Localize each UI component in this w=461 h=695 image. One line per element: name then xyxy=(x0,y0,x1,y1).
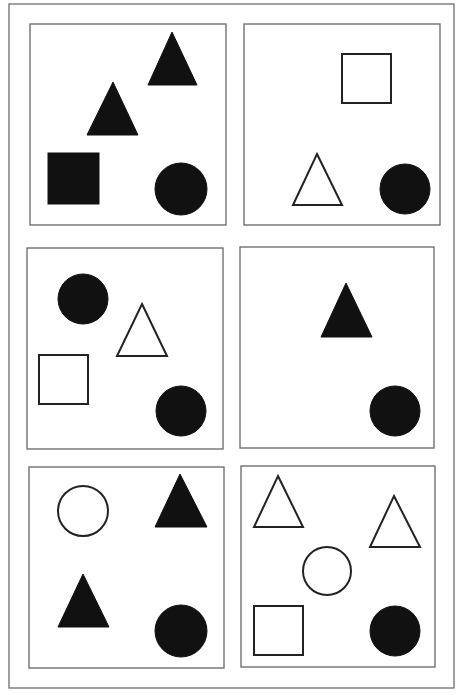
panel-5 xyxy=(29,467,224,668)
filled-circle-icon xyxy=(370,606,420,656)
filled-square-icon xyxy=(48,153,99,204)
outline-triangle-icon xyxy=(117,304,167,356)
outer-frame xyxy=(9,4,454,688)
filled-circle-icon xyxy=(155,605,207,657)
panel-6 xyxy=(241,466,435,667)
panel-3 xyxy=(27,248,223,449)
filled-triangle-icon xyxy=(87,82,138,135)
panel-2 xyxy=(244,24,440,225)
panel-1 xyxy=(30,24,226,225)
filled-circle-icon xyxy=(370,386,420,436)
shape-puzzle-diagram xyxy=(0,0,461,695)
filled-circle-icon xyxy=(58,274,108,324)
filled-triangle-icon xyxy=(148,32,197,85)
outline-circle-icon xyxy=(303,547,351,595)
panel-grid xyxy=(27,24,440,668)
outline-square-icon xyxy=(342,54,391,103)
filled-triangle-icon xyxy=(155,474,207,527)
filled-circle-icon xyxy=(380,164,430,214)
outline-triangle-icon xyxy=(370,496,420,547)
outline-triangle-icon xyxy=(293,154,342,205)
outline-square-icon xyxy=(254,606,303,655)
outline-triangle-icon xyxy=(254,476,303,527)
panel-4 xyxy=(240,247,434,448)
outline-square-icon xyxy=(39,355,88,404)
filled-circle-icon xyxy=(156,386,206,436)
filled-triangle-icon xyxy=(321,283,372,337)
outline-circle-icon xyxy=(58,486,108,536)
filled-triangle-icon xyxy=(58,574,109,627)
filled-circle-icon xyxy=(155,163,207,215)
